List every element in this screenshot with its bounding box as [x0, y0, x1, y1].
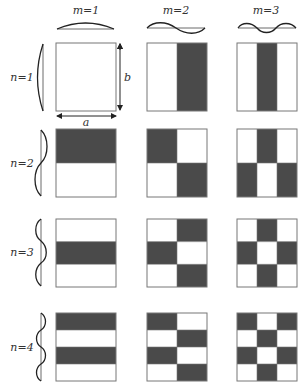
plate-vibration-mode-diagram: m=1 m=2 m=3 n=1 n=2 n=3 n=4	[0, 0, 307, 391]
antinode-region-light	[177, 347, 207, 364]
antinode-region-dark	[277, 347, 297, 364]
antinode-region-dark	[147, 129, 177, 163]
mode-shape-m1-icon	[57, 23, 114, 29]
antinode-region-light	[237, 264, 257, 287]
antinode-region-dark	[277, 163, 297, 197]
antinode-region-light	[56, 330, 116, 347]
antinode-region-dark	[257, 43, 277, 111]
column-label-m2: m=2	[163, 4, 190, 17]
mode-panel-m3-n2	[237, 129, 297, 197]
column-label-m1: m=1	[73, 4, 100, 17]
antinode-region-light	[277, 219, 297, 242]
mode-panel-m1-n3	[56, 219, 116, 287]
mode-shape-n3-icon	[36, 219, 47, 286]
column-label-m3: m=3	[253, 4, 280, 17]
antinode-region-light	[147, 219, 177, 242]
mode-shape-m2-icon	[147, 23, 205, 34]
antinode-region-dark	[177, 163, 207, 197]
mode-panel-m3-n3	[237, 219, 297, 287]
mode-shape-m3-icon	[238, 24, 296, 33]
antinode-region-dark	[56, 347, 116, 364]
antinode-region-dark	[177, 264, 207, 287]
antinode-region-light	[147, 364, 177, 381]
antinode-region-light	[56, 163, 116, 197]
antinode-region-dark	[257, 330, 277, 347]
antinode-region-light	[147, 264, 177, 287]
dimension-label-b: b	[124, 71, 131, 84]
mode-panel-m2-n2	[147, 129, 207, 197]
mode-shape-n1-icon	[38, 44, 44, 111]
antinode-region-dark	[56, 129, 116, 163]
antinode-region-light	[177, 129, 207, 163]
antinode-region-dark	[257, 264, 277, 287]
antinode-region-dark	[237, 347, 257, 364]
antinode-region-dark	[177, 219, 207, 242]
mode-panel-m2-n3	[147, 219, 207, 287]
antinode-region-light	[147, 43, 177, 111]
antinode-region-light	[56, 364, 116, 381]
antinode-region-dark	[147, 242, 177, 265]
antinode-region-light	[56, 264, 116, 287]
antinode-region-dark	[257, 129, 277, 163]
row-label-n2: n=2	[10, 157, 33, 170]
antinode-region-light	[237, 364, 257, 381]
antinode-region-light	[257, 163, 277, 197]
antinode-region-dark	[277, 242, 297, 265]
antinode-region-light	[237, 330, 257, 347]
row-label-n1: n=1	[10, 71, 33, 84]
antinode-region-dark	[56, 242, 116, 265]
antinode-region-light	[56, 43, 116, 111]
row-label-n3: n=3	[10, 246, 33, 259]
antinode-region-dark	[257, 364, 277, 381]
antinode-region-dark	[237, 242, 257, 265]
mode-panel-m1-n1	[56, 43, 116, 111]
antinode-region-light	[257, 347, 277, 364]
antinode-region-dark	[147, 347, 177, 364]
antinode-region-dark	[177, 330, 207, 347]
antinode-region-light	[237, 129, 257, 163]
antinode-region-light	[147, 163, 177, 197]
antinode-region-light	[277, 129, 297, 163]
antinode-region-light	[147, 330, 177, 347]
antinode-region-light	[237, 219, 257, 242]
antinode-region-light	[177, 242, 207, 265]
antinode-region-dark	[56, 313, 116, 330]
antinode-region-light	[277, 264, 297, 287]
mode-panel-m1-n4	[56, 313, 116, 381]
antinode-region-dark	[147, 313, 177, 330]
mode-panel-m3-n1	[237, 43, 297, 111]
antinode-region-dark	[177, 364, 207, 381]
mode-shape-n4-icon	[37, 313, 46, 381]
dimension-label-a: a	[83, 116, 90, 129]
antinode-region-light	[277, 330, 297, 347]
antinode-region-light	[56, 219, 116, 242]
antinode-region-light	[257, 313, 277, 330]
antinode-region-dark	[177, 43, 207, 111]
antinode-region-light	[277, 364, 297, 381]
antinode-region-light	[257, 242, 277, 265]
antinode-region-dark	[277, 313, 297, 330]
mode-panel-grid	[56, 43, 297, 381]
antinode-region-light	[277, 43, 297, 111]
mode-panel-m3-n4	[237, 313, 297, 381]
antinode-region-dark	[237, 313, 257, 330]
antinode-region-light	[177, 313, 207, 330]
antinode-region-light	[237, 43, 257, 111]
antinode-region-dark	[257, 219, 277, 242]
row-label-n4: n=4	[10, 341, 33, 354]
mode-panel-m1-n2	[56, 129, 116, 197]
mode-panel-m2-n1	[147, 43, 207, 111]
mode-shape-n2-icon	[35, 130, 47, 196]
mode-panel-m2-n4	[147, 313, 207, 381]
antinode-region-dark	[237, 163, 257, 197]
